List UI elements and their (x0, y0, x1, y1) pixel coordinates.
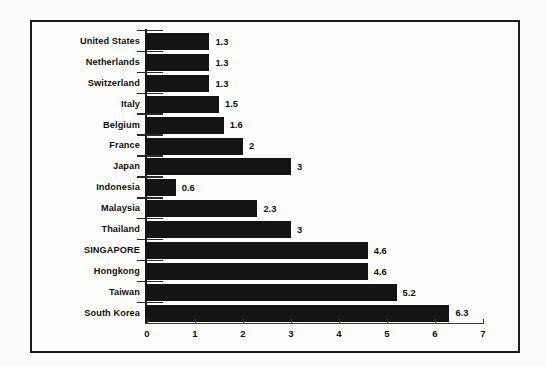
bar (147, 179, 176, 196)
value-label: 1.3 (215, 58, 228, 67)
value-label: 4.6 (374, 267, 387, 276)
category-tick (137, 218, 163, 220)
bar (147, 305, 449, 322)
category-tick (137, 260, 163, 262)
bar (147, 200, 257, 217)
category-label: Switzerland (88, 79, 140, 88)
category-tick (137, 155, 163, 157)
value-label: 5.2 (403, 288, 416, 297)
value-label: 3 (297, 162, 302, 171)
x-axis-tick-mark (195, 319, 196, 324)
category-label: Belgium (103, 121, 140, 130)
value-label: 1.3 (215, 37, 228, 46)
category-label: Malaysia (101, 204, 140, 213)
value-label: 4.6 (374, 246, 387, 255)
value-label: 3 (297, 225, 302, 234)
category-tick (137, 134, 163, 136)
category-tick (137, 51, 163, 53)
category-label: Taiwan (109, 288, 140, 297)
chart-figure: United StatesNetherlandsSwitzerlandItaly… (0, 0, 547, 367)
value-label: 0.6 (182, 183, 195, 192)
x-axis-tick-label: 6 (420, 329, 450, 339)
category-tick (137, 176, 163, 178)
x-axis-tick-label: 2 (228, 329, 258, 339)
x-axis-tick-label: 1 (180, 329, 210, 339)
category-label: Thailand (101, 225, 140, 234)
x-axis-tick-mark (147, 319, 148, 324)
x-axis-tick-label: 5 (372, 329, 402, 339)
category-tick (137, 113, 163, 115)
category-label: United States (80, 37, 140, 46)
category-label: South Korea (84, 309, 140, 318)
bar (147, 54, 209, 71)
category-label: Italy (121, 100, 140, 109)
category-tick (137, 281, 163, 283)
bar (147, 33, 209, 50)
category-label: Netherlands (86, 58, 140, 67)
bar (147, 158, 291, 175)
x-axis-tick-mark (483, 319, 484, 324)
x-axis-tick-mark (435, 319, 436, 324)
bar (147, 242, 368, 259)
bar (147, 96, 219, 113)
x-axis-tick-mark (339, 319, 340, 324)
x-axis-tick-mark (243, 319, 244, 324)
bar (147, 284, 397, 301)
category-tick (137, 30, 163, 32)
x-axis-tick-label: 0 (132, 329, 162, 339)
x-axis-tick-mark (291, 319, 292, 324)
category-tick (137, 197, 163, 199)
category-tick (137, 72, 163, 74)
value-label: 2 (249, 141, 254, 150)
category-label: Japan (113, 162, 140, 171)
category-label: Indonesia (96, 183, 140, 192)
category-label: Hongkong (94, 267, 140, 276)
category-label: SINGAPORE (84, 246, 140, 255)
x-axis-tick-label: 7 (468, 329, 498, 339)
category-tick (137, 239, 163, 241)
value-label: 1.5 (225, 99, 238, 108)
x-axis-tick-mark (387, 319, 388, 324)
value-label: 1.3 (215, 79, 228, 88)
bar (147, 117, 224, 134)
value-label: 1.6 (230, 120, 243, 129)
x-axis-tick-label: 3 (276, 329, 306, 339)
bar (147, 138, 243, 155)
bar (147, 221, 291, 238)
category-label: France (109, 141, 140, 150)
bar-chart-plot-area: United StatesNetherlandsSwitzerlandItaly… (0, 0, 547, 367)
bar (147, 263, 368, 280)
category-tick (137, 93, 163, 95)
value-label: 6.3 (455, 308, 468, 317)
category-tick (137, 302, 163, 304)
x-axis-tick-label: 4 (324, 329, 354, 339)
value-label: 2.3 (263, 204, 276, 213)
bar (147, 75, 209, 92)
